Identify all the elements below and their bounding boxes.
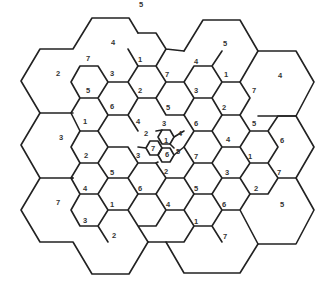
cell-label: 1 — [194, 217, 198, 226]
cell-label: 3 — [225, 168, 229, 177]
cell-label: 4 — [111, 38, 116, 47]
large-cell-left — [21, 113, 73, 178]
cell-label: 4 — [278, 71, 283, 80]
cell-label: 4 — [166, 200, 171, 209]
cell-label: 5 — [176, 147, 180, 156]
cell-label: 3 — [83, 216, 87, 225]
cell-label: 1 — [248, 152, 252, 161]
cell-label: 3 — [162, 119, 166, 128]
cell-label: 5 — [86, 86, 90, 95]
cell-label: 2 — [84, 151, 88, 160]
cell-label: 5 — [110, 168, 114, 177]
cell-label: 6 — [194, 119, 198, 128]
cell-label: 6 — [165, 150, 169, 159]
large-cell-top-right — [184, 20, 258, 82]
cell-label: 5 — [223, 39, 227, 48]
cell-label: 6 — [280, 136, 284, 145]
cell-label: 2 — [56, 69, 60, 78]
cell-label: 2 — [254, 184, 258, 193]
cell-label: 6 — [222, 200, 226, 209]
cell-label: 1 — [224, 70, 228, 79]
cell-label: 5 — [280, 200, 284, 209]
cell-label: 2 — [222, 103, 226, 112]
cell-label: 1 — [83, 117, 87, 126]
cell-label: 7 — [277, 168, 281, 177]
cell-label: 7 — [56, 198, 60, 207]
cell-label: 4 — [226, 135, 231, 144]
cell-label: 7 — [86, 54, 90, 63]
cell-label: 6 — [110, 102, 114, 111]
cell-label: 3 — [136, 151, 140, 160]
large-cell-right — [258, 51, 314, 116]
cell-label: 4 — [136, 117, 141, 126]
cell-label: 4 — [178, 129, 183, 138]
cell-label: 3 — [59, 133, 63, 142]
cell-label: 1 — [138, 55, 142, 64]
cell-label: 2 — [112, 231, 116, 240]
cell-grid-lines — [21, 18, 314, 274]
cell-label: 6 — [138, 184, 142, 193]
cell-label: 7 — [223, 232, 227, 241]
cell-label: 7 — [165, 70, 169, 79]
cell-label: 5 — [252, 119, 256, 128]
cell-label: 5 — [139, 0, 143, 9]
cell-label: 3 — [110, 69, 114, 78]
cell-label: 4 — [83, 184, 88, 193]
cell-label: 7 — [252, 86, 256, 95]
cell-label: 4 — [194, 57, 199, 66]
hexagonal-cell-diagram: 5452714371452376521436524314675623715237… — [0, 0, 328, 290]
medium-cells-row-a — [128, 33, 250, 115]
cell-label: 2 — [138, 86, 142, 95]
cell-label: 3 — [194, 86, 198, 95]
cell-label: 7 — [194, 152, 198, 161]
cell-label: 2 — [164, 167, 168, 176]
cell-label: 5 — [194, 184, 198, 193]
cell-label: 1 — [110, 200, 114, 209]
cell-label: 7 — [151, 144, 155, 153]
cell-label: 2 — [144, 129, 148, 138]
cell-label: 5 — [166, 103, 170, 112]
cell-label: 1 — [164, 136, 168, 145]
